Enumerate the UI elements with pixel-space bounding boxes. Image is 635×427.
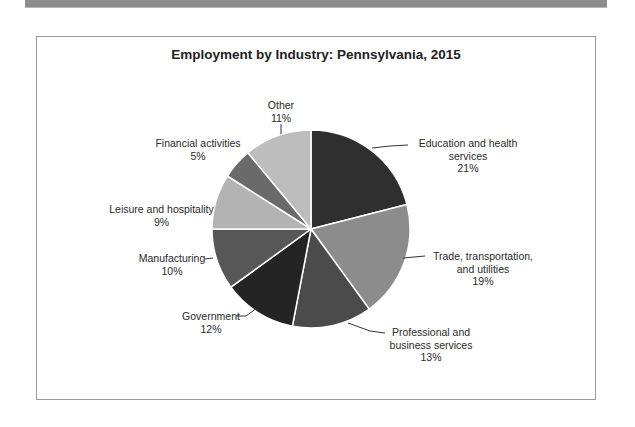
label-text: Government xyxy=(176,310,246,323)
pie-chart xyxy=(0,0,635,427)
label-text: Trade, transportation, xyxy=(418,250,548,263)
label-financial-activities: Financial activities 5% xyxy=(148,137,248,162)
label-percent: 19% xyxy=(418,275,548,288)
label-other: Other 11% xyxy=(261,99,301,124)
label-text: services xyxy=(398,150,538,163)
label-percent: 11% xyxy=(261,112,301,125)
label-professional-business: Professional and business services 13% xyxy=(376,326,486,364)
label-percent: 10% xyxy=(132,265,212,278)
label-trade-transportation: Trade, transportation, and utilities 19% xyxy=(418,250,548,288)
label-percent: 12% xyxy=(176,323,246,336)
label-text: Financial activities xyxy=(148,137,248,150)
label-text: Other xyxy=(261,99,301,112)
label-percent: 21% xyxy=(398,162,538,175)
label-percent: 5% xyxy=(148,150,248,163)
label-text: and utilities xyxy=(418,263,548,276)
label-text: Education and health xyxy=(398,137,538,150)
label-text: Leisure and hospitality xyxy=(104,203,219,216)
label-text: business services xyxy=(376,339,486,352)
label-education-health: Education and health services 21% xyxy=(398,137,538,175)
label-leisure-hospitality: Leisure and hospitality 9% xyxy=(104,203,219,228)
label-manufacturing: Manufacturing 10% xyxy=(132,252,212,277)
label-percent: 13% xyxy=(376,351,486,364)
label-text: Manufacturing xyxy=(132,252,212,265)
label-government: Government 12% xyxy=(176,310,246,335)
label-percent: 9% xyxy=(104,216,219,229)
label-text: Professional and xyxy=(376,326,486,339)
